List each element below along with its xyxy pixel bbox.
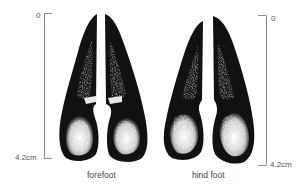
forefoot-left-toe [59,14,98,161]
forefoot-right-toe [105,14,148,162]
hind-foot-right-toe [212,16,254,164]
forefoot-caption: forefoot [87,171,116,180]
forefoot-scale-top-label: 0 [36,12,40,20]
hoof-print-figure: 0 4.2cm 0 4.2cm forefoot hind foot [0,0,307,187]
hind-foot-caption: hind foot [192,171,225,180]
forefoot-scale-bottom-label: 4.2cm [15,154,37,162]
hind-foot-scale-top-label: 0 [271,15,275,23]
hind-foot-left-toe [164,21,204,160]
hind-foot-print [164,16,255,164]
forefoot-print [59,14,147,162]
hoof-illustration [0,0,307,187]
hind-foot-scale-bar [258,16,267,166]
forefoot-scale-bar [45,14,53,159]
hind-foot-scale-bottom-label: 4.2cm [270,161,292,169]
